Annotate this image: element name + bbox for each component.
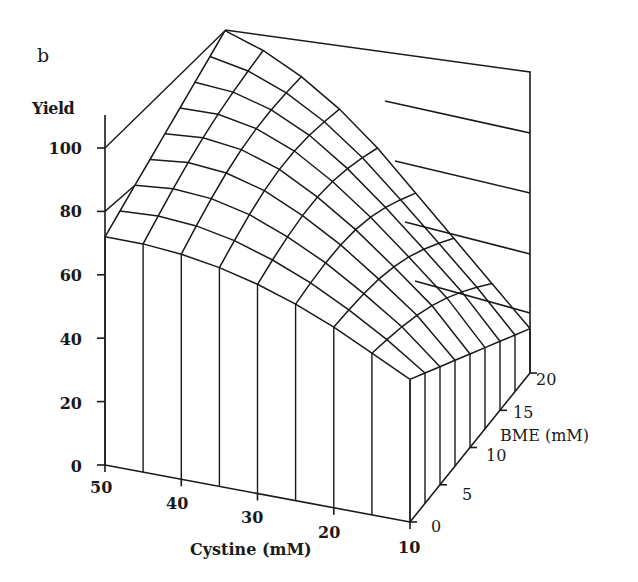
surface-mesh — [105, 31, 530, 380]
back-wall-gridline — [385, 101, 530, 133]
left-edge-line — [105, 185, 135, 211]
y-tick-label: 5 — [462, 485, 472, 504]
back-wall-gridline — [395, 161, 530, 193]
mesh-line-cystine — [219, 109, 339, 268]
z-tick-label: 80 — [42, 202, 82, 221]
z-tick-label: 100 — [42, 139, 82, 158]
x-axis-title: Cystine (mM) — [190, 540, 312, 559]
panel-label: b — [37, 44, 49, 66]
mesh-line-bme — [165, 134, 470, 354]
x-tick-label: 30 — [241, 508, 263, 527]
y-tick-label: 10 — [486, 446, 506, 465]
mesh-line-cystine — [258, 148, 378, 284]
y-axis-title: BME (mM) — [500, 426, 589, 445]
axes — [97, 115, 537, 529]
x-tick-label: 50 — [90, 478, 112, 497]
y-tick-label: 15 — [513, 403, 533, 422]
x-tick-label: 20 — [318, 523, 340, 542]
x-tick-label: 40 — [166, 494, 188, 513]
mesh-line-cystine — [334, 238, 454, 327]
z-tick-label: 60 — [42, 266, 82, 285]
mesh-line-bme — [180, 108, 485, 348]
y-tick-label: 20 — [536, 370, 556, 389]
surface-sides — [105, 31, 530, 522]
z-tick-label: 20 — [42, 394, 82, 413]
x-tick-label: 10 — [398, 538, 420, 557]
mesh-line-bme — [225, 31, 530, 329]
z-axis-title: Yield — [32, 99, 74, 118]
z-tick-label: 0 — [42, 457, 82, 476]
z-tick-label: 40 — [42, 330, 82, 349]
y-tick-label: 0 — [431, 517, 441, 536]
